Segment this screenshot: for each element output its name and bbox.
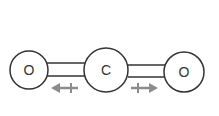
svg-text:O: O [179,64,190,80]
svg-text:O: O [24,62,35,78]
atom-oxygen-right: O [164,52,204,92]
bond-right [128,65,165,77]
co2-diagram: O C O [0,0,219,116]
svg-text:C: C [101,62,111,78]
dipole-arrow-left-icon [51,83,78,93]
bond-left [47,63,86,76]
atom-carbon: C [84,48,128,92]
dipole-arrow-right-icon [131,83,158,93]
atom-oxygen-left: O [10,51,48,89]
